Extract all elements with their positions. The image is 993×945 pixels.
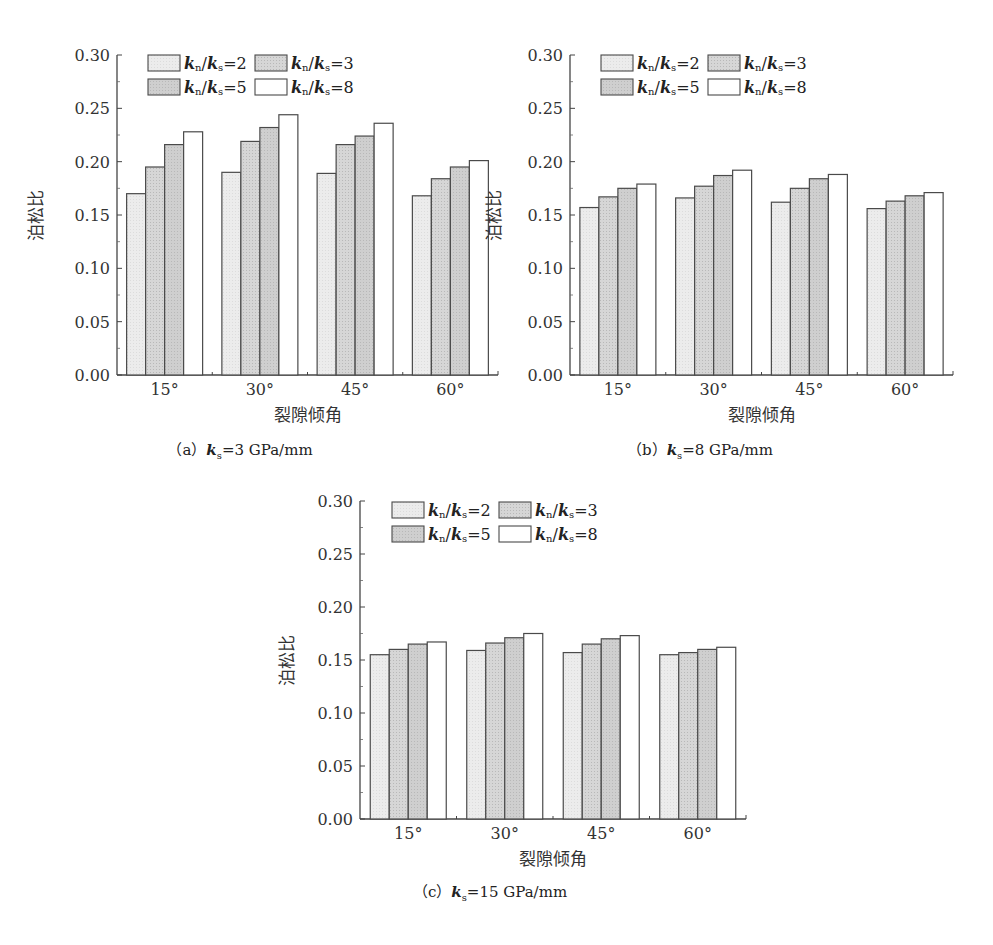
bar-undefined bbox=[505, 638, 524, 819]
legend-item-5: kn/ks=5 bbox=[392, 525, 491, 544]
bar-undefined bbox=[660, 655, 679, 819]
bar-undefined bbox=[389, 649, 408, 819]
y-tick-label: 0.30 bbox=[317, 492, 353, 511]
x-tick-label: 60° bbox=[684, 824, 712, 843]
bar-undefined bbox=[679, 653, 698, 819]
bar-undefined bbox=[717, 647, 736, 819]
legend-item-3: kn/ks=3 bbox=[499, 501, 598, 520]
caption-c-k-symbol: k bbox=[451, 883, 461, 901]
bar-undefined bbox=[486, 643, 505, 819]
caption-c-value: =15 GPa/mm bbox=[467, 883, 567, 901]
bar-undefined bbox=[620, 636, 639, 819]
legend-label: kn/ks=5 bbox=[428, 525, 491, 544]
x-tick-label: 30° bbox=[491, 824, 519, 843]
y-tick-label: 0.10 bbox=[317, 704, 353, 723]
legend-item-2: kn/ks=2 bbox=[392, 501, 491, 520]
legend-label: kn/ks=2 bbox=[428, 501, 491, 520]
bar-undefined bbox=[408, 644, 427, 819]
caption-c-prefix: （c） bbox=[413, 883, 451, 901]
bar-undefined bbox=[427, 642, 446, 819]
y-axis-title: 泊松比 bbox=[277, 635, 297, 686]
legend-swatch bbox=[392, 526, 424, 542]
y-tick-label: 0.25 bbox=[317, 545, 353, 564]
y-tick-label: 0.05 bbox=[317, 757, 353, 776]
x-tick-label: 45° bbox=[587, 824, 615, 843]
legend-swatch bbox=[499, 502, 531, 518]
legend-swatch bbox=[392, 502, 424, 518]
bar-undefined bbox=[601, 639, 620, 819]
legend-swatch bbox=[499, 526, 531, 542]
chart-panel-c: 0.000.050.100.150.200.250.3015°30°45°60°… bbox=[0, 0, 993, 870]
x-axis-title: 裂隙倾角 bbox=[519, 849, 587, 869]
bar-undefined bbox=[467, 650, 486, 819]
y-tick-label: 0.20 bbox=[317, 598, 353, 617]
y-tick-label: 0.00 bbox=[317, 810, 353, 829]
bar-undefined bbox=[563, 653, 582, 819]
bar-undefined bbox=[582, 644, 601, 819]
legend-item-8: kn/ks=8 bbox=[499, 525, 598, 544]
bar-undefined bbox=[698, 649, 717, 819]
caption-c: （c）ks=15 GPa/mm bbox=[413, 880, 567, 903]
legend-label: kn/ks=3 bbox=[535, 501, 598, 520]
x-tick-label: 15° bbox=[394, 824, 422, 843]
bar-chart-c: 0.000.050.100.150.200.250.3015°30°45°60°… bbox=[0, 0, 993, 870]
bar-undefined bbox=[524, 634, 543, 820]
bar-undefined bbox=[370, 655, 389, 819]
y-tick-label: 0.15 bbox=[317, 651, 353, 670]
legend-label: kn/ks=8 bbox=[535, 525, 598, 544]
